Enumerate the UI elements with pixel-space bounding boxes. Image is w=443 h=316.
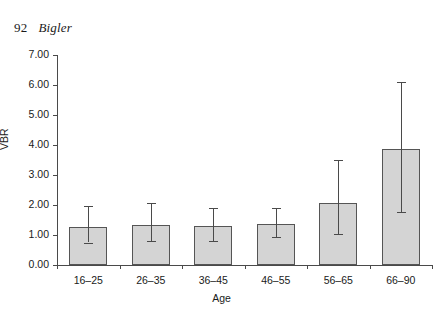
error-bar-line [151, 203, 152, 241]
error-bar-cap-lower [84, 243, 93, 244]
error-bar-line [276, 208, 277, 237]
error-bar-cap-lower [147, 241, 156, 242]
error-bar-cap-upper [397, 82, 406, 83]
x-tick-label: 16–25 [74, 274, 103, 286]
x-tick-label: 66–90 [386, 274, 415, 286]
error-bar-line [401, 82, 402, 212]
y-tick-label: 3.00 [0, 168, 49, 180]
error-bar-cap-upper [272, 208, 281, 209]
error-bar-cap-lower [272, 237, 281, 238]
error-bar-cap-upper [209, 208, 218, 209]
y-axis-title: VBR [0, 128, 10, 150]
error-bar-cap-lower [397, 212, 406, 213]
error-bar-cap-upper [334, 160, 343, 161]
y-tick-label: 6.00 [0, 78, 49, 90]
y-tick-label: 7.00 [0, 48, 49, 60]
y-tick-label: 5.00 [0, 108, 49, 120]
y-tick-label: 0.00 [0, 258, 49, 270]
x-tick-label: 46–55 [261, 274, 290, 286]
bar-chart-figure: 0.001.002.003.004.005.006.007.00 16–2526… [0, 0, 443, 316]
error-bar-line [213, 208, 214, 241]
error-bar-cap-lower [209, 241, 218, 242]
error-bar-line [338, 160, 339, 234]
error-bar-cap-upper [84, 206, 93, 207]
error-bar-cap-upper [147, 203, 156, 204]
y-tick-label: 1.00 [0, 228, 49, 240]
x-tick-label: 26–35 [136, 274, 165, 286]
x-tick-label: 56–65 [324, 274, 353, 286]
x-tick-label: 36–45 [199, 274, 228, 286]
x-axis-title: Age [0, 292, 443, 304]
error-bar-line [88, 206, 89, 243]
error-bar-cap-lower [334, 234, 343, 235]
bars-layer [57, 55, 433, 266]
y-tick-label: 2.00 [0, 198, 49, 210]
